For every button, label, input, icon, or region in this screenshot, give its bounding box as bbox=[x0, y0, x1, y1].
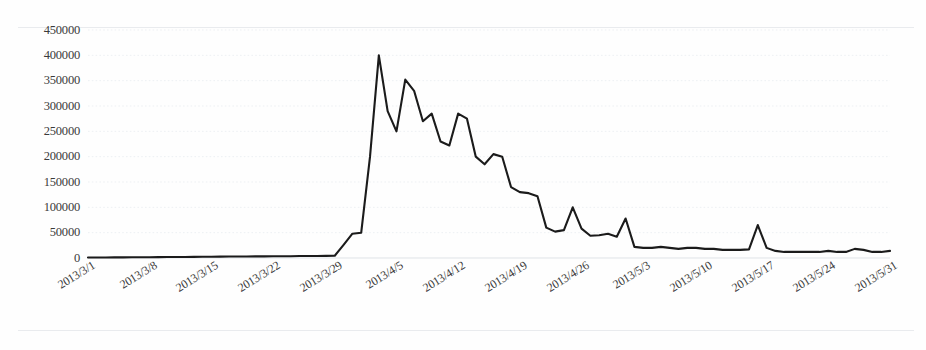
x-axis-tick-label: 2013/3/29 bbox=[288, 258, 345, 301]
x-axis-tick-label-text: 2013/5/17 bbox=[719, 258, 776, 301]
x-axis-tick-label: 2013/3/1 bbox=[41, 258, 98, 301]
chart-bottom-border bbox=[18, 330, 914, 331]
x-axis-tick-label-text: 2013/3/22 bbox=[226, 258, 283, 301]
y-axis-tick-label: 400000 bbox=[2, 49, 80, 62]
x-axis-tick-label-text: 2013/3/8 bbox=[103, 258, 160, 301]
x-axis-tick-label-text: 2013/4/26 bbox=[534, 258, 591, 301]
x-axis-tick-label: 2013/4/19 bbox=[473, 258, 530, 301]
x-axis-tick-label: 2013/3/22 bbox=[226, 258, 283, 301]
x-axis-tick-label-text: 2013/4/5 bbox=[349, 258, 406, 301]
x-axis-tick-label-text: 2013/3/29 bbox=[288, 258, 345, 301]
x-axis-tick-label: 2013/5/24 bbox=[781, 258, 838, 301]
x-axis-tick-labels: 2013/3/12013/3/82013/3/152013/3/222013/3… bbox=[0, 258, 926, 328]
x-axis-tick-label: 2013/5/17 bbox=[719, 258, 776, 301]
x-axis-tick-label: 2013/3/15 bbox=[164, 258, 221, 301]
x-axis-tick-label: 2013/5/3 bbox=[596, 258, 653, 301]
y-axis-tick-label: 100000 bbox=[2, 201, 80, 214]
x-axis-tick-label: 2013/3/8 bbox=[103, 258, 160, 301]
x-axis-tick-label: 2013/4/12 bbox=[411, 258, 468, 301]
plot-area bbox=[88, 30, 890, 258]
y-axis-tick-label: 300000 bbox=[2, 100, 80, 113]
x-axis-tick-label: 2013/4/26 bbox=[534, 258, 591, 301]
plot-svg bbox=[88, 30, 890, 258]
x-axis-tick-label-text: 2013/3/15 bbox=[164, 258, 221, 301]
x-axis-tick-label-text: 2013/5/24 bbox=[781, 258, 838, 301]
x-axis-tick-label: 2013/5/31 bbox=[843, 258, 900, 301]
y-axis-tick-label: 350000 bbox=[2, 74, 80, 87]
y-axis-tick-label: 50000 bbox=[2, 226, 80, 239]
x-axis-tick-label-text: 2013/5/10 bbox=[658, 258, 715, 301]
y-axis-tick-label: 250000 bbox=[2, 125, 80, 138]
gridlines bbox=[88, 30, 890, 258]
x-axis-tick-label-text: 2013/4/12 bbox=[411, 258, 468, 301]
y-axis-tick-label: 150000 bbox=[2, 176, 80, 189]
line-chart: 4500004000003500003000002500002000001500… bbox=[0, 0, 926, 350]
x-axis-tick-label: 2013/4/5 bbox=[349, 258, 406, 301]
x-axis-tick-label-text: 2013/5/3 bbox=[596, 258, 653, 301]
y-axis-tick-label: 200000 bbox=[2, 150, 80, 163]
y-axis-tick-label: 450000 bbox=[2, 24, 80, 37]
x-axis-tick-label: 2013/5/10 bbox=[658, 258, 715, 301]
chart-top-border bbox=[18, 27, 914, 28]
x-axis-tick-label-text: 2013/4/19 bbox=[473, 258, 530, 301]
x-axis-tick-label-text: 2013/3/1 bbox=[41, 258, 98, 301]
x-axis-tick-label-text: 2013/5/31 bbox=[843, 258, 900, 301]
